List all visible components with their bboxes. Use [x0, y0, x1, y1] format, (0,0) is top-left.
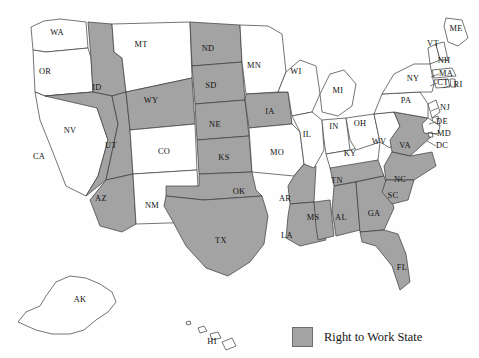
state-label-co: CO: [158, 147, 170, 156]
state-label-ma: MA: [439, 69, 453, 78]
state-ak[interactable]: [18, 276, 116, 334]
state-label-vt: VT: [427, 39, 439, 48]
state-label-ut: UT: [105, 141, 117, 150]
state-label-ne: NE: [209, 120, 221, 129]
state-label-mn: MN: [247, 61, 261, 70]
state-ne[interactable]: [195, 100, 249, 140]
legend-label-right-to-work: Right to Work State: [324, 330, 422, 345]
state-label-nv: NV: [64, 126, 77, 135]
state-label-va: VA: [399, 141, 411, 150]
state-label-id: ID: [92, 83, 101, 92]
state-label-nd: ND: [202, 44, 215, 53]
state-label-ak: AK: [74, 295, 87, 304]
state-label-ok: OK: [233, 187, 246, 196]
state-label-ms: MS: [307, 213, 320, 222]
state-label-ny: NY: [407, 74, 420, 83]
state-label-ks: KS: [218, 153, 229, 162]
state-nc[interactable]: [384, 152, 436, 180]
state-label-oh: OH: [354, 119, 367, 128]
state-label-mi: MI: [333, 86, 344, 95]
state-label-tn: TN: [331, 176, 343, 185]
state-label-ca: CA: [33, 152, 45, 161]
state-label-nc: NC: [394, 175, 406, 184]
state-label-sd: SD: [205, 81, 216, 90]
state-label-wy: WY: [144, 96, 159, 105]
state-label-ky: KY: [344, 149, 357, 158]
state-label-dc: DC: [436, 141, 448, 150]
state-label-nm: NM: [145, 201, 159, 210]
state-label-wi: WI: [290, 67, 301, 76]
us-map-svg: WAORCAIDNVUTAZMTWYCONMNDSDNEKSOKTXMNIAMO…: [0, 0, 479, 358]
state-label-ia: IA: [265, 107, 274, 116]
state-label-mo: MO: [270, 148, 284, 157]
state-dc[interactable]: [428, 132, 433, 137]
state-label-az: AZ: [95, 194, 107, 203]
state-label-ct: CT: [437, 78, 448, 87]
state-label-pa: PA: [401, 96, 412, 105]
state-label-in: IN: [329, 122, 338, 131]
state-label-md: MD: [437, 129, 451, 138]
state-label-de: DE: [436, 117, 448, 126]
state-label-wv: WV: [372, 137, 387, 146]
state-label-tx: TX: [215, 236, 227, 245]
state-label-al: AL: [335, 213, 347, 222]
legend-swatch-right-to-work: [292, 327, 313, 347]
state-label-sc: SC: [388, 191, 399, 200]
state-label-hi: HI: [207, 337, 216, 346]
state-label-wa: WA: [50, 28, 64, 37]
state-label-nh: NH: [438, 56, 451, 65]
state-label-mt: MT: [134, 40, 147, 49]
state-label-fl: FL: [397, 263, 407, 272]
state-label-ar: AR: [279, 194, 291, 203]
state-label-il: IL: [303, 130, 312, 139]
state-fl[interactable]: [360, 230, 410, 290]
us-right-to-work-map: WAORCAIDNVUTAZMTWYCONMNDSDNEKSOKTXMNIAMO…: [0, 0, 479, 358]
state-label-nj: NJ: [440, 103, 450, 112]
state-label-me: ME: [449, 24, 462, 33]
state-label-ri: RI: [454, 80, 463, 89]
state-mn[interactable]: [240, 25, 286, 94]
state-label-or: OR: [39, 67, 51, 76]
state-sd[interactable]: [192, 62, 245, 104]
state-al[interactable]: [332, 182, 360, 236]
state-nj[interactable]: [428, 100, 440, 118]
state-nd[interactable]: [190, 22, 242, 66]
state-label-ga: GA: [368, 209, 381, 218]
state-label-la: LA: [281, 231, 293, 240]
map-legend: Right to Work State: [292, 327, 422, 347]
